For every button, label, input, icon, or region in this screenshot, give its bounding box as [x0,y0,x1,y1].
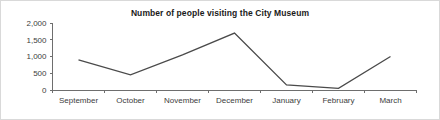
x-axis-tick-label: February [322,96,354,105]
y-axis-tick-label: 2,000 [26,19,47,28]
x-axis-tick-label: December [216,96,253,105]
data-series-line [79,33,391,88]
y-axis-tick-labels: 05001,0001,5002,000 [26,19,47,95]
y-axis-tick-label: 0 [42,86,47,95]
x-axis-tick-label: November [164,96,201,105]
y-axis-tick-label: 500 [33,69,47,78]
x-axis-tick-label: September [59,96,98,105]
line-chart-plot: 05001,0001,5002,000 SeptemberOctoberNove… [1,1,440,120]
x-axis-tick-label: October [116,96,145,105]
chart-figure: Number of people visiting the City Museu… [0,0,440,120]
y-axis-tick-label: 1,000 [26,52,47,61]
x-axis-tick-label: March [379,96,401,105]
y-axis-tick-label: 1,500 [26,36,47,45]
x-axis-tick-labels: SeptemberOctoberNovemberDecemberJanuaryF… [59,96,402,105]
x-axis-tick-label: January [272,96,300,105]
